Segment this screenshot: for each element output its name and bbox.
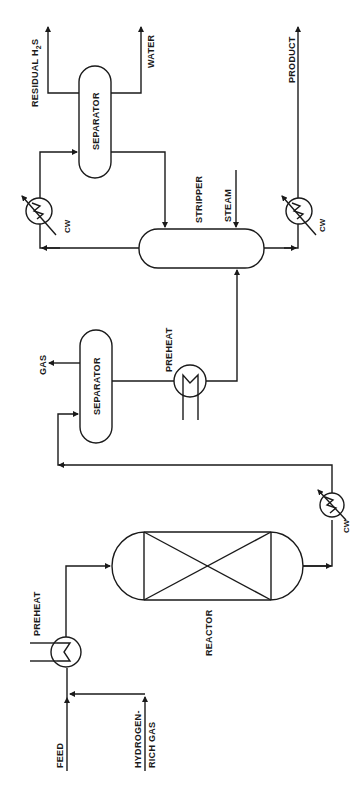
reactor-outlet-line [303,520,332,566]
preheat-to-stripper-line [206,270,237,381]
separator2-label: SEPARATOR [91,92,101,150]
stripper-overhead-line [40,224,139,248]
product-outlet: PRODUCT [287,27,298,198]
steam-label: STEAM [223,189,233,222]
hydrogen-rich-gas-stream: HYDROGEN- RICH GAS [70,694,157,771]
cooler-1: CW [318,490,351,533]
hydrogen-label-line1: HYDROGEN- [133,710,143,768]
stripper-label: STRIPPER [194,175,204,223]
water-outlet: WATER [111,27,156,93]
water-label: WATER [146,34,156,68]
gas-outlet: GAS [38,355,80,375]
cooler2-to-separator-line [40,152,77,198]
process-flow-diagram: FEED HYDROGEN- RICH GAS PREHEAT REACTOR … [0,0,357,799]
cooler-3: CW [282,196,327,235]
separator-reflux-line [111,152,165,227]
preheat-to-reactor-line [66,566,110,637]
cooler1-label: CW [342,519,351,533]
cooler3-label: CW [318,218,327,232]
preheat-exchanger-2: PREHEAT [164,327,206,420]
residual-h2s-outlet: RESIDUAL H2S [30,27,79,107]
cooler2-label: CW [63,219,72,233]
preheat-exchanger-1: PREHEAT [30,591,81,667]
stripper-bottoms-line [264,224,298,248]
preheat2-label: PREHEAT [164,327,174,372]
product-label: PRODUCT [287,36,297,83]
separator-2-vessel: SEPARATOR [79,66,111,178]
reactor-vessel: REACTOR [112,532,303,656]
steam-inlet: STEAM [223,170,236,227]
reactor-label: REACTOR [204,609,214,656]
cooler-2: CW [22,196,72,235]
hydrogen-label-line2: RICH GAS [147,722,157,768]
separator-1-vessel: SEPARATOR [80,330,112,443]
feed-label: FEED [55,743,65,768]
gas-label: GAS [38,355,48,375]
residual-h2s-label: RESIDUAL H2S [30,39,42,107]
feed-stream: FEED [55,698,67,771]
separator1-label: SEPARATOR [92,357,102,415]
preheat1-label: PREHEAT [32,591,42,636]
stripper-column: STRIPPER [139,175,264,268]
